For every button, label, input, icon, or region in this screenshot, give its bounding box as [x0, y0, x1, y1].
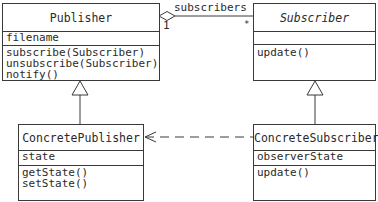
operation: notify()	[6, 69, 159, 80]
operation: update()	[257, 167, 375, 178]
attribute: observerState	[257, 151, 375, 163]
attribute: state	[22, 151, 143, 163]
attribute-compartment: observerState	[254, 151, 375, 166]
class-name: Subscriber	[254, 4, 375, 32]
attribute: filename	[6, 32, 159, 44]
attribute-compartment: state	[19, 151, 143, 166]
class-concrete-publisher[interactable]: ConcretePublisher state getState() setSt…	[18, 124, 144, 201]
operation-compartment: subscribe(Subscriber) unsubscribe(Subscr…	[3, 46, 159, 80]
generalization-triangle-icon	[72, 81, 88, 95]
multiplicity-target: *	[244, 19, 249, 29]
attribute-compartment: filename	[3, 32, 159, 46]
class-publisher[interactable]: Publisher filename subscribe(Subscriber)…	[2, 3, 160, 81]
class-name: Publisher	[3, 4, 159, 32]
class-subscriber[interactable]: Subscriber update()	[253, 3, 376, 81]
multiplicity-source: 1	[163, 19, 170, 32]
attribute-compartment	[254, 32, 375, 45]
role-label-subscribers: subscribers	[174, 1, 247, 14]
operation-compartment: getState() setState()	[19, 166, 143, 189]
class-concrete-subscriber[interactable]: ConcreteSubscriber observerState update(…	[253, 124, 376, 201]
class-name: ConcreteSubscriber	[254, 125, 375, 151]
generalization-triangle-icon	[307, 81, 323, 95]
class-name: ConcretePublisher	[19, 125, 143, 151]
operation: setState()	[22, 178, 143, 189]
operation-compartment: update()	[254, 45, 375, 58]
operation-compartment: update()	[254, 166, 375, 178]
operation: update()	[257, 47, 375, 58]
